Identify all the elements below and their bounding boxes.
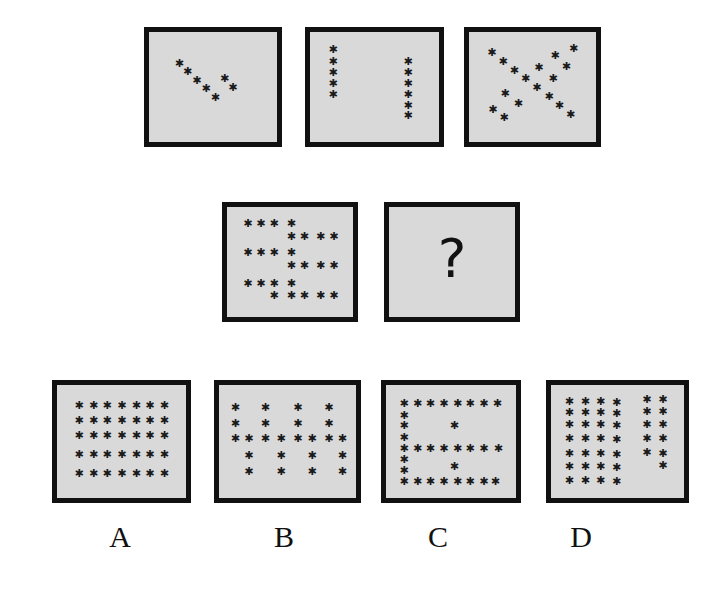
option-panel-d[interactable]: ✱✱✱✱✱✱✱✱✱✱✱✱✱✱✱✱✱✱✱✱✱✱✱✱✱✱✱✱✱✱✱✱✱✱✱✱✱✱✱ (546, 380, 689, 503)
star-icon: ✱ (316, 262, 324, 270)
star-icon: ✱ (269, 292, 277, 300)
star-icon: ✱ (658, 435, 666, 443)
star-icon: ✱ (329, 80, 337, 88)
star-icon: ✱ (532, 84, 540, 92)
star-icon: ✱ (413, 478, 421, 486)
star-icon: ✱ (426, 478, 434, 486)
star-icon: ✱ (514, 100, 522, 108)
star-icon: ✱ (244, 468, 252, 476)
star-icon: ✱ (117, 451, 125, 459)
star-icon: ✱ (75, 451, 83, 459)
star-icon: ✱ (493, 400, 501, 408)
star-icon: ✱ (439, 478, 447, 486)
star-icon: ✱ (308, 468, 316, 476)
star-icon: ✱ (450, 422, 458, 430)
star-icon: ✱ (276, 435, 284, 443)
star-icon: ✱ (581, 398, 589, 406)
star-icon: ✱ (103, 451, 111, 459)
star-icon: ✱ (256, 249, 264, 257)
star-icon: ✱ (581, 409, 589, 417)
star-icon: ✱ (145, 402, 153, 410)
star-icon: ✱ (117, 402, 125, 410)
star-icon: ✱ (466, 400, 474, 408)
star-icon: ✱ (160, 402, 168, 410)
star-icon: ✱ (293, 404, 301, 412)
star-icon: ✱ (89, 451, 97, 459)
star-icon: ✱ (399, 434, 407, 442)
star-icon: ✱ (453, 478, 461, 486)
star-icon: ✱ (183, 68, 191, 76)
sequence-panel-1: ✱✱✱✱✱✱✱ (144, 27, 282, 147)
star-icon: ✱ (612, 410, 620, 418)
star-icon: ✱ (316, 233, 324, 241)
star-icon: ✱ (269, 280, 277, 288)
star-icon: ✱ (399, 400, 407, 408)
star-icon: ✱ (103, 402, 111, 410)
star-icon: ✱ (117, 417, 125, 425)
question-mark: ? (389, 229, 515, 289)
star-icon: ✱ (256, 220, 264, 228)
star-icon: ✱ (612, 436, 620, 444)
star-icon: ✱ (565, 450, 573, 458)
option-panel-c[interactable]: ✱✱✱✱✱✱✱✱✱✱✱✱✱✱✱✱✱✱✱✱✱✱✱✱✱✱✱✱✱✱✱ (381, 380, 521, 503)
star-icon: ✱ (160, 451, 168, 459)
star-icon: ✱ (145, 417, 153, 425)
star-icon: ✱ (555, 102, 563, 110)
star-icon: ✱ (544, 93, 552, 101)
star-icon: ✱ (231, 420, 239, 428)
star-icon: ✱ (117, 470, 125, 478)
star-icon: ✱ (658, 421, 666, 429)
star-icon: ✱ (426, 445, 434, 453)
star-icon: ✱ (211, 94, 219, 102)
star-icon: ✱ (261, 404, 269, 412)
star-icon: ✱ (329, 58, 337, 66)
star-icon: ✱ (316, 292, 324, 300)
star-icon: ✱ (329, 262, 337, 270)
star-icon: ✱ (612, 478, 620, 486)
star-icon: ✱ (89, 417, 97, 425)
option-panel-b[interactable]: ✱✱✱✱✱✱✱✱✱✱✱✱✱✱✱✱✱✱✱✱✱✱✱✱ (214, 380, 361, 503)
star-icon: ✱ (287, 220, 295, 228)
star-icon: ✱ (562, 63, 570, 71)
star-icon: ✱ (488, 106, 496, 114)
star-icon: ✱ (439, 445, 447, 453)
sequence-panel-4: ✱✱✱✱✱✱✱✱✱✱✱✱✱✱✱✱✱✱✱✱✱✱✱✱✱ (222, 202, 358, 322)
star-icon: ✱ (642, 421, 650, 429)
star-icon: ✱ (75, 432, 83, 440)
option-label-b[interactable]: B (264, 520, 304, 554)
star-icon: ✱ (256, 280, 264, 288)
star-icon: ✱ (75, 402, 83, 410)
star-icon: ✱ (117, 432, 125, 440)
star-icon: ✱ (399, 456, 407, 464)
star-icon: ✱ (228, 84, 236, 92)
star-icon: ✱ (399, 422, 407, 430)
star-icon: ✱ (453, 400, 461, 408)
star-icon: ✱ (324, 404, 332, 412)
star-icon: ✱ (329, 292, 337, 300)
star-icon: ✱ (269, 220, 277, 228)
option-label-c[interactable]: C (418, 520, 458, 554)
star-icon: ✱ (403, 112, 411, 120)
star-icon: ✱ (413, 400, 421, 408)
star-icon: ✱ (569, 45, 577, 53)
star-icon: ✱ (160, 470, 168, 478)
sequence-panel-3: ✱✱✱✱✱✱✱✱✱✱✱✱✱✱✱✱✱ (464, 27, 601, 147)
star-icon: ✱ (658, 462, 666, 470)
star-icon: ✱ (132, 402, 140, 410)
star-icon: ✱ (642, 449, 650, 457)
star-icon: ✱ (565, 409, 573, 417)
star-icon: ✱ (658, 450, 666, 458)
star-icon: ✱ (261, 435, 269, 443)
star-icon: ✱ (103, 470, 111, 478)
star-icon: ✱ (338, 468, 346, 476)
option-label-a[interactable]: A (100, 520, 140, 554)
option-label-d[interactable]: D (561, 520, 601, 554)
star-icon: ✱ (491, 478, 499, 486)
star-icon: ✱ (658, 396, 666, 404)
star-icon: ✱ (300, 292, 308, 300)
star-icon: ✱ (642, 435, 650, 443)
star-icon: ✱ (596, 463, 604, 471)
sequence-panel-2: ✱✱✱✱✱✱✱✱✱✱✱ (305, 27, 444, 147)
option-panel-a[interactable]: ✱✱✱✱✱✱✱✱✱✱✱✱✱✱✱✱✱✱✱✱✱✱✱✱✱✱✱✱✱✱✱✱✱✱✱ (52, 380, 191, 503)
star-icon: ✱ (145, 432, 153, 440)
